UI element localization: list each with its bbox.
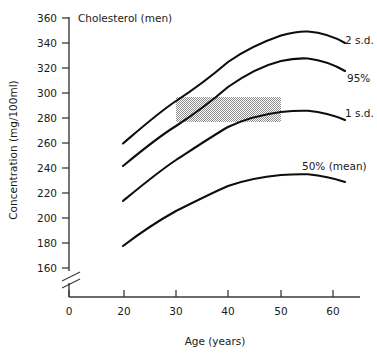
series-label-50-mean: 50% (mean) — [302, 160, 367, 172]
x-tick-label: 50 — [274, 305, 287, 317]
series-label-1sd: 1 s.d. — [345, 107, 374, 119]
y-tick-label: 200 — [37, 212, 57, 224]
chart-title: Cholesterol (men) — [78, 12, 172, 24]
y-axis-title: Concentration (mg/100ml) — [7, 80, 19, 219]
y-tick-label: 300 — [37, 87, 57, 99]
x-tick-label: 0 — [66, 305, 73, 317]
x-tick-label: 30 — [169, 305, 182, 317]
series-label-95-group: 95% — [347, 72, 370, 84]
series-label-1sd-group: 1 s.d. — [345, 107, 374, 119]
cholesterol-chart: 360 340 320 300 280 260 240 220 200 180 … — [0, 0, 377, 360]
y-tick-label: 360 — [37, 12, 57, 24]
chart-background — [0, 0, 377, 360]
y-tick-label: 320 — [37, 62, 57, 74]
x-tick-label: 20 — [117, 305, 130, 317]
y-tick-label: 240 — [37, 162, 57, 174]
x-tick-label: 40 — [221, 305, 234, 317]
y-tick-label: 220 — [37, 187, 57, 199]
desirable-range-band — [176, 97, 281, 122]
x-tick-label: 60 — [326, 305, 339, 317]
y-tick-label: 180 — [37, 237, 57, 249]
series-label-95: 95% — [347, 72, 370, 84]
series-label-50-group: 50% (mean) — [302, 160, 367, 172]
chart-canvas: 360 340 320 300 280 260 240 220 200 180 … — [0, 0, 377, 360]
y-tick-label: 340 — [37, 37, 57, 49]
y-tick-label: 260 — [37, 137, 57, 149]
y-tick-label: 160 — [37, 262, 57, 274]
y-tick-label: 280 — [37, 112, 57, 124]
series-label-2sd-group: 2 s.d. — [345, 34, 374, 46]
x-axis-title: Age (years) — [185, 335, 246, 347]
series-label-2sd: 2 s.d. — [345, 34, 374, 46]
